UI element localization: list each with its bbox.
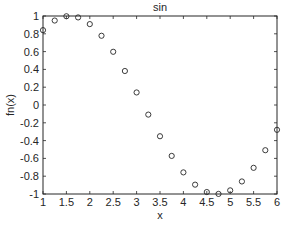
x-tick-label: 3.5 (152, 196, 167, 208)
x-tick-labels: 11.522.533.544.555.56 (40, 196, 280, 208)
y-tick-label: -1 (29, 188, 39, 200)
y-tick-label: -0.2 (20, 117, 39, 129)
y-tick-label: 1 (33, 10, 39, 22)
y-tick-labels: -1-0.8-0.6-0.4-0.200.20.40.60.81 (20, 10, 39, 200)
x-axis-label: x (157, 209, 163, 221)
y-axis-label: fn(x) (4, 94, 16, 116)
chart-title: sin (153, 1, 167, 13)
chart-svg: 11.522.533.544.555.56 -1-0.8-0.6-0.4-0.2… (0, 0, 284, 227)
x-tick-label: 2.5 (106, 196, 121, 208)
x-tick-label: 1.5 (59, 196, 74, 208)
x-tick-label: 2 (87, 196, 93, 208)
y-tick-label: 0.4 (24, 63, 39, 75)
y-tick-label: 0.8 (24, 28, 39, 40)
y-tick-label: 0.2 (24, 81, 39, 93)
y-tick-label: -0.6 (20, 152, 39, 164)
y-tick-label: -0.4 (20, 135, 39, 147)
plot-area (43, 16, 277, 194)
x-tick-label: 1 (40, 196, 46, 208)
plot-background (43, 16, 277, 194)
chart-figure: 11.522.533.544.555.56 -1-0.8-0.6-0.4-0.2… (0, 0, 284, 227)
y-tick-label: 0 (33, 99, 39, 111)
y-tick-label: 0.6 (24, 46, 39, 58)
y-tick-label: -0.8 (20, 170, 39, 182)
x-tick-label: 4 (180, 196, 186, 208)
x-tick-label: 6 (274, 196, 280, 208)
x-tick-label: 5.5 (246, 196, 261, 208)
x-tick-label: 3 (134, 196, 140, 208)
x-tick-label: 4.5 (199, 196, 214, 208)
x-tick-label: 5 (227, 196, 233, 208)
